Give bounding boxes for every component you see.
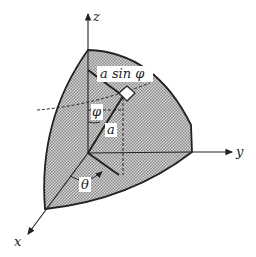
- phi-label: φ: [92, 104, 102, 119]
- theta-label: θ: [81, 177, 89, 192]
- x-axis-label: x: [14, 234, 22, 249]
- y-axis-label: y: [235, 144, 244, 159]
- a-sin-phi-label: a sin φ: [100, 66, 145, 81]
- spherical-octant-diagram: z y x a sin φ φ a θ: [0, 0, 256, 257]
- z-axis-label: z: [92, 9, 100, 24]
- radius-label: a: [107, 122, 115, 137]
